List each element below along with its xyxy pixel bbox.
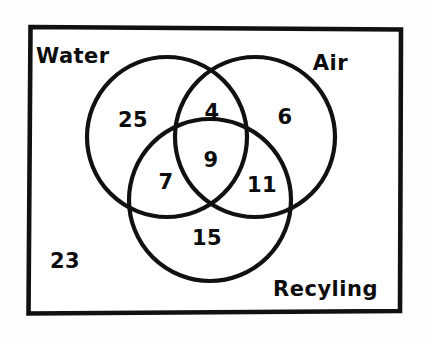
region-value-water-only: 25 xyxy=(118,108,148,132)
region-value-water-air: 4 xyxy=(204,100,219,124)
region-value-recycling-only: 15 xyxy=(192,226,222,250)
venn-diagram-canvas: Water Air Recyling 25 4 6 9 7 11 15 23 xyxy=(0,0,428,340)
recycling-set-label: Recyling xyxy=(273,277,378,301)
region-value-air-only: 6 xyxy=(277,105,292,129)
region-value-outside: 23 xyxy=(50,249,80,273)
region-value-all-three: 9 xyxy=(203,148,218,172)
venn-diagram-figure: Water Air Recyling 25 4 6 9 7 11 15 23 xyxy=(0,0,428,340)
region-value-air-recycling: 11 xyxy=(247,173,277,197)
air-set-label: Air xyxy=(313,51,348,75)
water-set-label: Water xyxy=(36,44,110,68)
region-value-water-recycling: 7 xyxy=(158,170,173,194)
